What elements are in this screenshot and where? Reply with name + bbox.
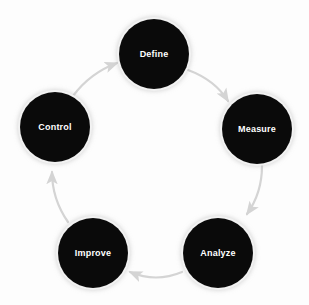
node-analyze-label: Analyze xyxy=(200,249,235,258)
node-control[interactable]: Control xyxy=(20,92,90,162)
arrow-measure-to-analyze xyxy=(247,166,262,214)
arrow-define-to-measure xyxy=(188,70,228,101)
node-measure-label: Measure xyxy=(238,125,276,134)
arrow-analyze-to-improve xyxy=(130,272,182,278)
node-analyze[interactable]: Analyze xyxy=(183,218,253,288)
node-measure[interactable]: Measure xyxy=(222,94,292,164)
dmaic-cycle-diagram: Define Measure Analyze Improve Control xyxy=(0,0,309,305)
node-define[interactable]: Define xyxy=(119,19,189,89)
arrow-control-to-define xyxy=(73,63,117,96)
arrow-improve-to-control xyxy=(52,172,68,222)
node-improve[interactable]: Improve xyxy=(58,218,128,288)
node-improve-label: Improve xyxy=(75,249,111,258)
node-define-label: Define xyxy=(140,50,169,59)
node-control-label: Control xyxy=(38,123,71,132)
